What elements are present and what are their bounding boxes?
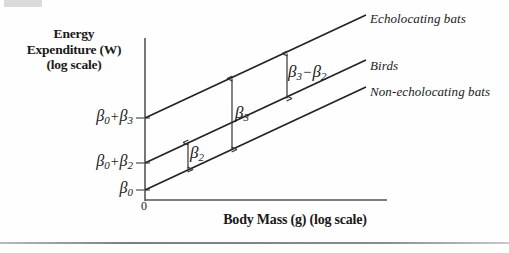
beta-subscript-0: 0 <box>128 186 134 198</box>
beta-subscript-2: 2 <box>198 151 204 163</box>
x-axis-title: Body Mass (g) (log scale) <box>170 212 420 228</box>
annotation-label-beta2: β2 <box>190 144 204 166</box>
origin-label: 0 <box>141 199 147 214</box>
y-tick-label-beta0-plus-beta2: β0+β2 <box>55 153 133 173</box>
annotation-label-beta3-minus-beta2: β3−β2 <box>288 63 326 85</box>
plus-operator: + <box>110 154 120 169</box>
beta-subscript-3: 3 <box>243 111 249 123</box>
series-label-non-echolocating-bats: Non-echolocating bats <box>370 84 490 100</box>
series-label-birds: Birds <box>370 58 398 74</box>
beta-symbol: β <box>120 179 128 196</box>
beta-subscript-2: 2 <box>321 70 327 82</box>
beta-symbol: β <box>96 107 104 124</box>
y-tick-label-beta0: β0 <box>55 180 133 200</box>
beta-symbol: β <box>120 152 128 169</box>
beta-symbol: β <box>120 107 128 124</box>
beta-subscript-3: 3 <box>128 114 134 126</box>
series-line-birds <box>145 60 366 163</box>
beta-subscript-0: 0 <box>104 159 110 171</box>
beta-symbol: β <box>312 62 320 81</box>
beta-symbol: β <box>96 152 104 169</box>
annotation-label-beta3: β3 <box>235 104 249 126</box>
y-tick-label-beta0-plus-beta3: β0+β3 <box>55 108 133 128</box>
beta-subscript-2: 2 <box>128 159 134 171</box>
minus-operator: − <box>302 64 312 80</box>
chart-figure: Energy Expenditure (W) (log scale) <box>0 0 509 253</box>
series-label-echolocating-bats: Echolocating bats <box>370 11 466 27</box>
beta-subscript-0: 0 <box>104 114 110 126</box>
plus-operator: + <box>110 109 120 124</box>
